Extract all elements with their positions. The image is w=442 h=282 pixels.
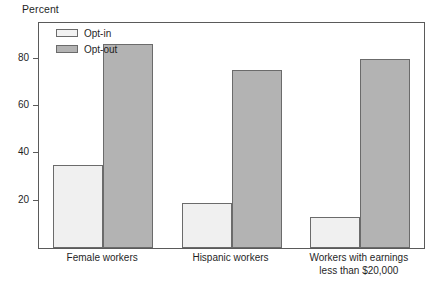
legend-item-opt-in[interactable]: Opt-in <box>56 26 117 40</box>
y-axis-tick-label: 40 <box>18 146 29 157</box>
y-axis-tick: 20 <box>33 200 39 201</box>
bar-opt-out-group-2 <box>232 70 282 248</box>
legend-item-opt-out[interactable]: Opt-out <box>56 42 117 56</box>
chart-legend: Opt-inOpt-out <box>56 26 117 58</box>
y-axis-title: Percent <box>22 3 59 15</box>
bar-opt-in-group-3 <box>310 217 360 248</box>
bar-opt-out-group-3 <box>360 59 410 248</box>
x-axis-group-label: Female workers <box>38 252 166 265</box>
legend-swatch-icon <box>56 45 78 53</box>
legend-swatch-icon <box>56 29 78 37</box>
x-axis-group-label: Workers with earnings less than $20,000 <box>295 252 423 277</box>
y-axis-tick-label: 20 <box>18 194 29 205</box>
x-axis-group-label: Hispanic workers <box>166 252 294 265</box>
legend-item-label: Opt-out <box>84 44 117 55</box>
bar-opt-in-group-1 <box>53 165 103 248</box>
bar-opt-out-group-1 <box>103 44 153 248</box>
y-axis-tick: 60 <box>33 105 39 106</box>
y-axis-tick: 80 <box>33 58 39 59</box>
y-axis-tick-label: 60 <box>18 99 29 110</box>
y-axis-tick-label: 80 <box>18 52 29 63</box>
legend-item-label: Opt-in <box>84 28 111 39</box>
bar-opt-in-group-2 <box>182 203 232 248</box>
y-axis-tick: 40 <box>33 152 39 153</box>
bar-chart: Percent 20406080 Opt-inOpt-out Female wo… <box>0 0 442 282</box>
